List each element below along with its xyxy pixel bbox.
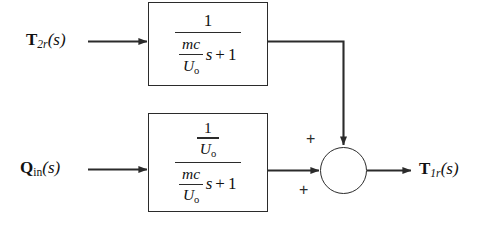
- fraction-outer-bottom: 1 Uo mc Uo s+1: [175, 119, 241, 207]
- input-symbol-qin: Q: [20, 158, 33, 177]
- denominator-bottom: mc Uo s+1: [175, 165, 241, 207]
- fraction-coefficient-top: mc Uo: [179, 35, 203, 77]
- numerator-denominator-subscript-bottom: o: [211, 148, 216, 159]
- input-arg-t2r: (s): [48, 30, 66, 49]
- fraction-bar: [179, 54, 203, 55]
- transfer-function-block-top: 1 mc Uo s+1: [148, 2, 268, 86]
- coefficient-denominator-subscript-bottom: o: [194, 195, 199, 206]
- operator-plus-top: +: [214, 45, 227, 64]
- input-subscript-t2r: 2r: [37, 38, 47, 51]
- fraction-coefficient-bottom: mc Uo: [179, 165, 203, 207]
- transfer-function-bottom: 1 Uo mc Uo s+1: [174, 119, 242, 207]
- fraction-outer-top: 1 mc Uo s+1: [175, 11, 241, 76]
- output-label-t1r: T1r(s): [419, 160, 459, 180]
- numerator-top: 1: [201, 11, 216, 30]
- summing-junction-sign-bottom: +: [299, 182, 308, 198]
- block-diagram: T2r(s) Qin(s) T1r(s) 1 mc Uo s+1: [0, 0, 499, 235]
- output-subscript-t1r: 1r: [430, 167, 440, 180]
- variable-s-bottom: s: [204, 174, 214, 193]
- coefficient-denominator-bottom: Uo: [180, 186, 202, 206]
- coefficient-denominator-subscript-top: o: [194, 65, 199, 76]
- numerator-bottom: 1 Uo: [193, 119, 223, 161]
- transfer-function-top: 1 mc Uo s+1: [174, 11, 242, 76]
- fraction-bar: [197, 137, 219, 138]
- input-label-t2r: T2r(s): [26, 31, 66, 51]
- input-label-qin: Qin(s): [20, 159, 60, 179]
- input-symbol-t2r: T: [26, 30, 37, 49]
- denominator-top: mc Uo s+1: [175, 35, 241, 77]
- coefficient-denominator-symbol-bottom: U: [183, 186, 194, 203]
- numerator-top-value-bottom: 1: [201, 119, 215, 136]
- input-subscript-qin: in: [33, 166, 42, 179]
- coefficient-denominator-symbol-top: U: [183, 57, 194, 74]
- coefficient-denominator-top: Uo: [180, 57, 202, 77]
- output-symbol-t1r: T: [419, 159, 430, 178]
- constant-one-top: 1: [226, 45, 238, 64]
- transfer-function-block-bottom: 1 Uo mc Uo s+1: [148, 113, 268, 212]
- fraction-bar: [175, 32, 241, 33]
- summing-junction-sign-top: +: [306, 131, 315, 147]
- operator-plus-bottom: +: [214, 174, 227, 193]
- coefficient-numerator-top: mc: [179, 35, 203, 52]
- constant-one-bottom: 1: [226, 174, 238, 193]
- fraction-bar: [179, 184, 203, 185]
- output-arg-t1r: (s): [441, 159, 459, 178]
- coefficient-numerator-bottom: mc: [179, 165, 203, 182]
- numerator-bottom-value-bottom: Uo: [197, 140, 219, 160]
- summing-junction: [320, 147, 367, 194]
- fraction-numerator-bottom: 1 Uo: [197, 119, 219, 161]
- input-arg-qin: (s): [42, 158, 60, 177]
- fraction-bar: [175, 162, 241, 163]
- numerator-denominator-symbol-bottom: U: [200, 140, 211, 157]
- variable-s-top: s: [204, 45, 214, 64]
